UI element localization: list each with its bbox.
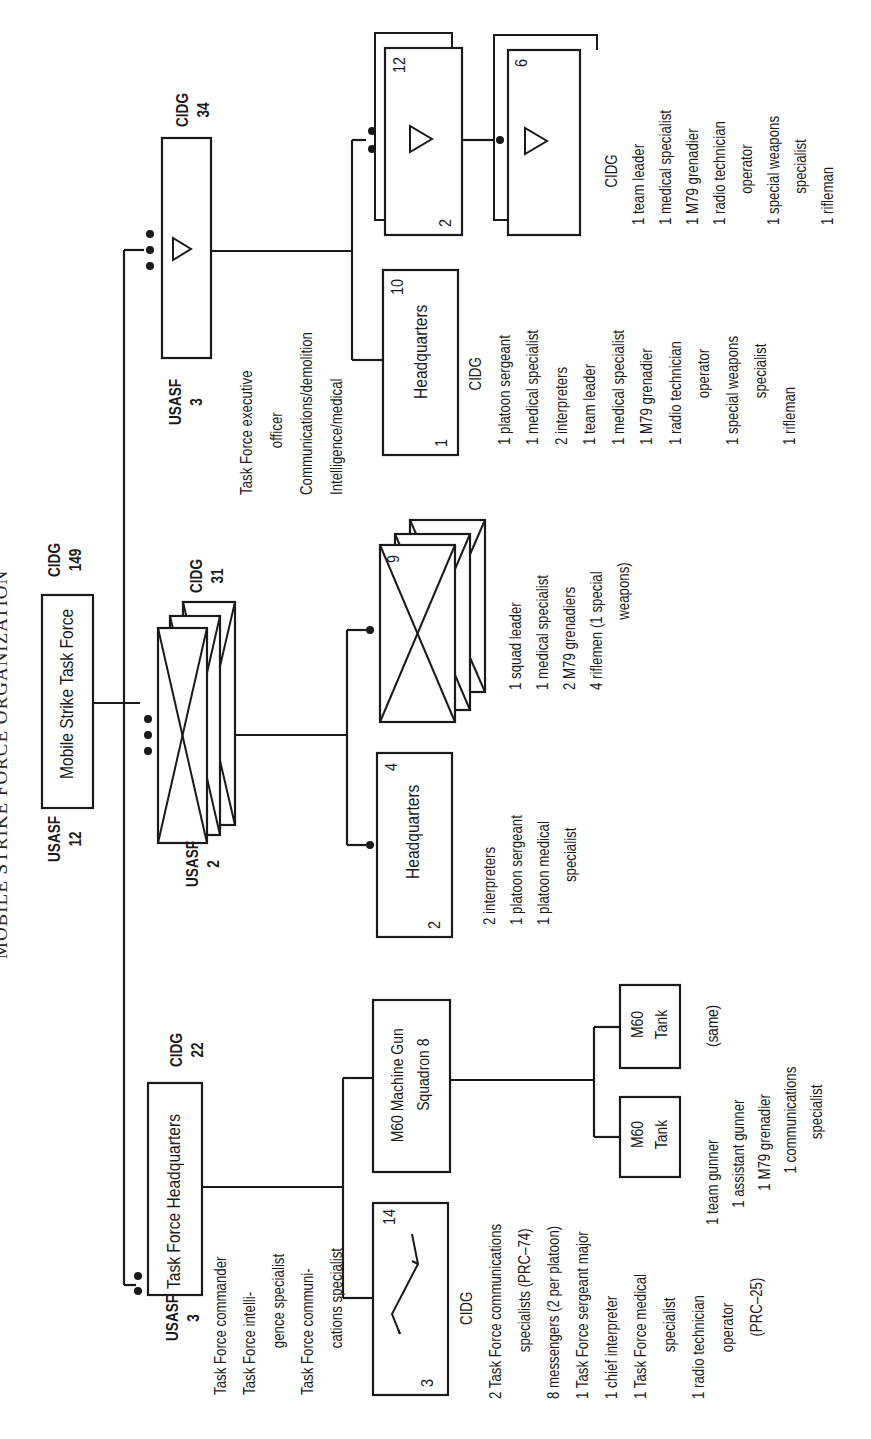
hq-usasf-roles: Task Force commander Task Force intelli-… xyxy=(206,1248,351,1395)
dot-icon xyxy=(144,715,152,723)
rifle-cidg-label: CIDG 31 xyxy=(186,559,228,593)
dot-icon xyxy=(366,841,374,849)
platoon-hq-right-number: 4 xyxy=(382,763,402,771)
org-chart: MOBILE STRIKE FORCE ORGANIZATION xyxy=(0,0,871,1439)
tank-1-label: M60 Tank xyxy=(626,1114,674,1155)
dot-icon xyxy=(146,246,154,254)
dot-icon xyxy=(144,731,152,739)
commo-left-number: 3 xyxy=(418,1379,438,1387)
tf-cidg-label: CIDG 149 xyxy=(44,543,86,577)
platoon-hq-roles: 2 interpreters 1 platoon sergeant 1 plat… xyxy=(476,815,584,925)
dot-icon xyxy=(496,136,504,144)
recon-hq-right-number: 10 xyxy=(388,279,408,295)
recon-usasf-label: USASF 3 xyxy=(165,379,207,425)
dot-icon xyxy=(368,145,376,153)
recon-hq-left-number: 1 xyxy=(432,439,452,447)
dot-icon xyxy=(144,747,152,755)
recon-platoon-left-number: 2 xyxy=(436,219,456,227)
tank-2-label: M60 Tank xyxy=(626,1004,674,1045)
recon-platoon-right-number: 12 xyxy=(390,57,410,73)
dot-icon xyxy=(146,262,154,270)
recon-cidg-label: CIDG 34 xyxy=(172,93,214,127)
platoon-hq-left-number: 2 xyxy=(425,921,445,929)
same-note: (same) xyxy=(700,1005,726,1047)
platoon-hq-label: Headquarters xyxy=(402,785,424,879)
hq-usasf-label: USASF 3 xyxy=(162,1295,204,1341)
recon-team-roles: CIDG 1 team leader 1 medical specialist … xyxy=(598,110,841,225)
commo-right-number: 14 xyxy=(380,1209,400,1225)
tank-crew-roles: 1 team gunner 1 assistant gunner 1 M79 g… xyxy=(700,1067,830,1225)
dot-icon xyxy=(134,1272,142,1280)
mg-squadron-label: M60 Machine Gun Squadron 8 xyxy=(385,1016,437,1155)
dot-icon xyxy=(134,1287,142,1295)
task-force-label: Mobile Strike Task Force xyxy=(56,609,78,779)
dot-icon xyxy=(368,127,376,135)
tf-usasf-label: USASF 12 xyxy=(44,816,86,862)
tf-hq-label: Task Force Headquarters xyxy=(163,1114,185,1289)
dot-icon xyxy=(366,626,374,634)
squad-roles: 1 squad leader 1 medical specialist 2 M7… xyxy=(502,562,637,690)
recon-hq-roles: CIDG 1 platoon sergeant 1 medical specia… xyxy=(462,330,804,445)
recon-usasf-roles: Task Force executive officer Communicati… xyxy=(232,332,352,495)
hq-cidg-label: CIDG 22 xyxy=(166,1033,208,1067)
squad-number: 9 xyxy=(384,555,404,563)
rifle-usasf-label: USASF 2 xyxy=(182,841,224,887)
recon-team-number: 6 xyxy=(512,59,532,67)
dot-icon xyxy=(146,230,154,238)
commo-cidg-roles: CIDG 2 Task Force communications special… xyxy=(452,1224,771,1399)
recon-hq-label: Headquarters xyxy=(410,305,432,399)
